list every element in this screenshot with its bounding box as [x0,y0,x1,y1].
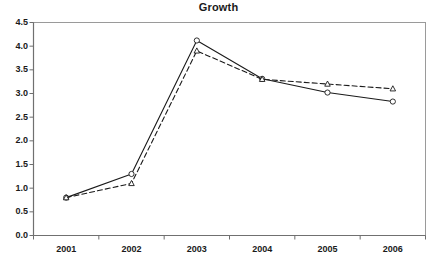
x-axis-tick-label: 2003 [164,245,229,254]
y-axis-tick-label: 0.0 [0,231,28,240]
data-point-triangle [194,48,200,53]
plot-frame [34,23,426,236]
series-line-triangle [66,51,393,198]
data-point-triangle [129,180,135,185]
y-axis-tick-label: 1.0 [0,184,28,193]
data-point-circle [325,90,330,95]
x-axis-tick-label: 2005 [295,245,360,254]
y-axis-tick-label: 0.5 [0,207,28,216]
x-axis-tick-label: 2001 [34,245,99,254]
x-axis-tick-label: 2004 [230,245,295,254]
plot-area [0,0,437,259]
growth-line-chart: Growth 0.00.51.01.52.02.53.03.54.04.5 20… [0,0,437,259]
x-axis-tick-label: 2006 [360,245,425,254]
y-axis-tick-label: 3.5 [0,65,28,74]
series-line-circle [66,40,393,197]
y-axis-tick-label: 2.0 [0,136,28,145]
data-point-triangle [390,86,396,91]
y-axis-tick-label: 1.5 [0,160,28,169]
y-axis-tick-label: 3.0 [0,89,28,98]
data-point-circle [194,38,199,43]
x-axis-tick-label: 2002 [99,245,164,254]
y-axis-tick-label: 2.5 [0,113,28,122]
y-axis-tick-label: 4.5 [0,18,28,27]
y-axis-tick-label: 4.0 [0,42,28,51]
data-point-circle [129,171,134,176]
data-point-circle [390,99,395,104]
